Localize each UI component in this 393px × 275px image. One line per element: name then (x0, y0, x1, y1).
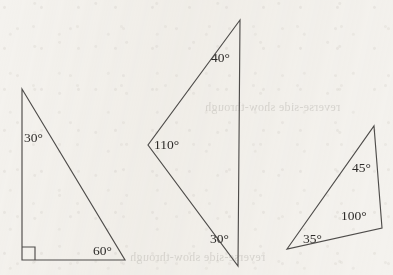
angle-30-left-apex: 30° (24, 131, 43, 145)
angle-40-middle-top: 40° (211, 51, 230, 65)
triangles-drawing (0, 0, 393, 275)
triangle-left (22, 89, 125, 260)
angle-100-right-bottomright: 100° (341, 209, 367, 223)
angle-30-middle-bottom: 30° (210, 232, 229, 246)
angle-45-right-top: 45° (352, 161, 371, 175)
triangles-figure: reverse-side show-through reverse-side s… (0, 0, 393, 275)
angle-35-right-bottomleft: 35° (303, 232, 322, 246)
triangle-left-right-angle-mark (22, 247, 35, 260)
triangle-right (287, 126, 382, 249)
angle-110-middle-left: 110° (154, 138, 179, 152)
angle-60-left-bottomright: 60° (93, 244, 112, 258)
